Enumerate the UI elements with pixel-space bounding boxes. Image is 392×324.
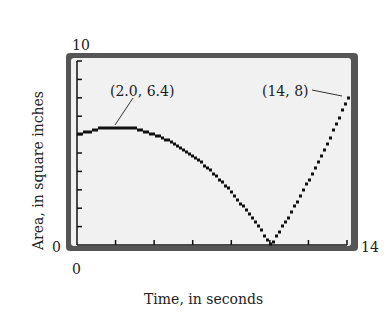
x-max-label: 14 bbox=[361, 240, 379, 254]
annotation-peak: (2.0, 6.4) bbox=[110, 84, 174, 98]
y-max-label: 10 bbox=[72, 38, 90, 52]
annotation-end: (14, 8) bbox=[262, 84, 309, 98]
calculator-plot bbox=[0, 0, 392, 324]
x-min-label: 0 bbox=[72, 262, 81, 276]
x-axis-title: Time, in seconds bbox=[144, 292, 263, 306]
y-axis-title: Area, in square inches bbox=[30, 91, 46, 250]
y-min-label: 0 bbox=[52, 240, 61, 254]
